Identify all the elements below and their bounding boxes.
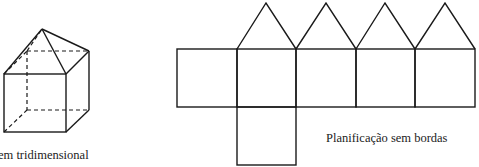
solid-caption: em tridimensional — [0, 148, 89, 163]
net-square-bottom — [237, 107, 296, 165]
solid-figure — [4, 29, 89, 132]
net-squares — [177, 49, 475, 165]
net-square-1 — [237, 49, 296, 107]
net-caption: Planificação sem bordas — [326, 131, 447, 146]
net-triangle-4 — [415, 3, 475, 49]
net-triangle-1 — [237, 3, 296, 49]
net-triangles — [237, 3, 475, 49]
net-triangle-2 — [296, 3, 356, 49]
net-square-4 — [415, 49, 475, 107]
net-triangle-3 — [356, 3, 415, 49]
net-square-2 — [296, 49, 356, 107]
net-square-left — [177, 49, 237, 107]
net-square-3 — [356, 49, 415, 107]
